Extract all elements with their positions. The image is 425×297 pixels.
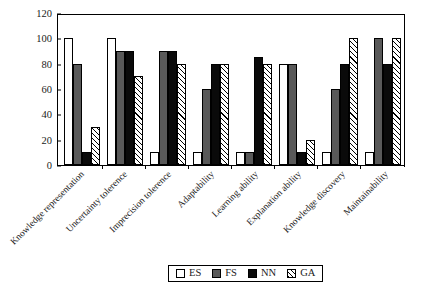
x-axis-label-text: Maintainability: [342, 169, 390, 217]
bar-ga-6: [306, 140, 315, 165]
legend-swatch-fs-icon: [212, 269, 221, 278]
legend-item-es: ES: [176, 268, 201, 279]
y-axis-tick-label: 80: [42, 59, 53, 70]
y-axis-tick-label: 0: [47, 161, 52, 172]
bar-nn-1: [82, 152, 91, 165]
bar-es-4: [193, 152, 202, 165]
bar-nn-7: [340, 64, 349, 165]
bar-fs-2: [116, 51, 125, 165]
y-axis-tick-label: 40: [42, 110, 53, 121]
legend-item-fs: FS: [212, 268, 237, 279]
bar-nn-5: [254, 57, 263, 165]
bar-fs-4: [202, 89, 211, 165]
bar-group: [275, 14, 318, 165]
bar-fs-6: [288, 64, 297, 165]
bar-es-6: [279, 64, 288, 165]
legend-item-ga: GA: [287, 268, 315, 279]
bar-group: [189, 14, 232, 165]
bar-es-1: [64, 38, 73, 165]
bar-ga-3: [177, 64, 186, 165]
bar-es-7: [322, 152, 331, 165]
x-axis-label-text: Adaptability: [176, 169, 217, 210]
bar-es-3: [150, 152, 159, 165]
bar-fs-1: [73, 64, 82, 165]
bar-es-5: [236, 152, 245, 165]
bar-chart: 020406080100120 Knowledge representation…: [0, 0, 425, 297]
bar-group: [60, 14, 103, 165]
bar-fs-7: [331, 89, 340, 165]
bar-ga-8: [392, 38, 401, 165]
bar-nn-3: [168, 51, 177, 165]
bar-group: [232, 14, 275, 165]
bar-ga-1: [91, 127, 100, 165]
legend-label: GA: [300, 268, 315, 279]
bar-group: [318, 14, 361, 165]
bar-ga-7: [349, 38, 358, 165]
bar-nn-8: [383, 64, 392, 165]
bar-nn-2: [125, 51, 134, 165]
bar-fs-3: [159, 51, 168, 165]
bar-fs-8: [374, 38, 383, 165]
y-axis-tick-label: 120: [36, 9, 52, 20]
legend-label: NN: [261, 268, 276, 279]
bar-group: [146, 14, 189, 165]
y-axis-tick-label: 20: [42, 135, 53, 146]
bar-nn-4: [211, 64, 220, 165]
bar-fs-5: [245, 152, 254, 165]
x-axis-labels: Knowledge representationUncertainty tole…: [57, 167, 405, 255]
bar-group: [361, 14, 404, 165]
bar-nn-6: [297, 152, 306, 165]
y-axis-tick-label: 100: [36, 34, 52, 45]
bar-groups: [58, 14, 405, 165]
legend-item-nn: NN: [248, 268, 276, 279]
chart-legend: ESFSNNGA: [168, 265, 323, 282]
bar-ga-4: [220, 64, 229, 165]
legend-label: ES: [189, 268, 201, 279]
bar-group: [103, 14, 146, 165]
bar-es-8: [365, 152, 374, 165]
bar-ga-5: [263, 64, 272, 165]
legend-swatch-ga-icon: [287, 269, 296, 278]
bar-es-2: [107, 38, 116, 165]
bar-ga-2: [134, 76, 143, 165]
legend-swatch-nn-icon: [248, 269, 257, 278]
legend-swatch-es-icon: [176, 269, 185, 278]
y-axis-tick-label: 60: [42, 85, 53, 96]
legend-label: FS: [225, 268, 237, 279]
plot-area: [57, 14, 405, 166]
